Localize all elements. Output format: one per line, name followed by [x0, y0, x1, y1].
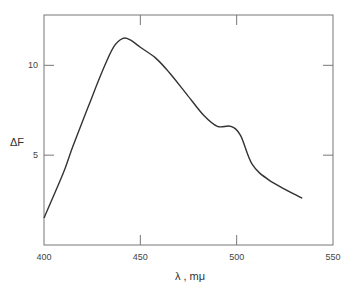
x-tick-label: 550	[325, 252, 340, 262]
plot-border	[44, 15, 333, 245]
plot-frame	[44, 15, 333, 245]
x-tick-label: 400	[36, 252, 51, 262]
x-tick-label: 500	[229, 252, 244, 262]
x-axis-label: λ , mμ	[175, 270, 205, 282]
x-tick-label: 450	[133, 252, 148, 262]
y-tick-label: 10	[28, 60, 38, 70]
y-tick-label: 5	[33, 150, 38, 160]
y-axis-label: ΔF	[10, 136, 24, 148]
axis-ticks: 400450500550510	[28, 15, 341, 262]
delta-f-curve	[44, 38, 302, 218]
spectrum-chart: 400450500550510 ΔF λ , mμ	[0, 0, 355, 288]
